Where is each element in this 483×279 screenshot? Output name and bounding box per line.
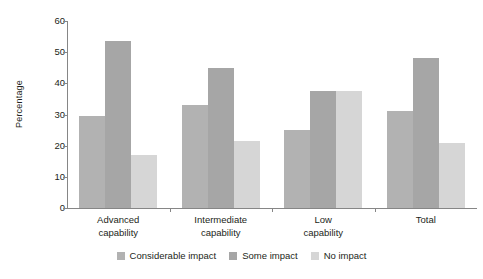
legend-item[interactable]: Considerable impact [117, 250, 217, 261]
x-axis-category-label-line: capability [166, 227, 276, 240]
chart-legend: Considerable impactSome impactNo impact [0, 250, 483, 261]
x-axis-category-label-line: Intermediate [166, 214, 276, 227]
x-axis-category-label-line: capability [63, 227, 173, 240]
y-tick-label: 60 [35, 15, 65, 27]
legend-swatch-icon [229, 252, 237, 260]
bar [208, 68, 234, 208]
x-tick-mark [375, 208, 376, 212]
legend-item[interactable]: Some impact [229, 250, 297, 261]
x-axis-category-label-line: Total [371, 214, 481, 227]
y-axis-title: Percentage [8, 0, 30, 208]
legend-label: No impact [324, 250, 367, 261]
bars-layer [67, 21, 477, 208]
bar-chart: Percentage 0102030405060 Advancedcapabil… [0, 0, 483, 279]
x-axis-category-label: Intermediatecapability [166, 214, 276, 239]
y-tick-label: 10 [35, 171, 65, 183]
legend-label: Considerable impact [130, 250, 217, 261]
plot-area: 0102030405060 [67, 21, 477, 208]
y-tick-label: 50 [35, 46, 65, 58]
legend-item[interactable]: No impact [311, 250, 367, 261]
legend-label: Some impact [242, 250, 297, 261]
bar [105, 41, 131, 208]
y-tick-label: 0 [35, 202, 65, 214]
y-tick-mark [63, 208, 67, 209]
bar [182, 105, 208, 208]
bar [439, 143, 465, 208]
bar [310, 91, 336, 208]
bar [413, 58, 439, 208]
bar [234, 141, 260, 208]
y-tick-label: 40 [35, 77, 65, 89]
bar [336, 91, 362, 208]
x-axis-category-label-line: capability [268, 227, 378, 240]
bar [79, 116, 105, 208]
legend-swatch-icon [311, 252, 319, 260]
x-tick-mark [170, 208, 171, 212]
legend-swatch-icon [117, 252, 125, 260]
x-axis-category-label: Total [371, 214, 481, 227]
x-axis-category-label-line: Advanced [63, 214, 173, 227]
bar [284, 130, 310, 208]
y-tick-label: 20 [35, 140, 65, 152]
x-axis-category-label: Lowcapability [268, 214, 378, 239]
x-tick-mark [272, 208, 273, 212]
y-tick-label: 30 [35, 109, 65, 121]
x-axis-category-label-line: Low [268, 214, 378, 227]
x-axis-category-label: Advancedcapability [63, 214, 173, 239]
y-axis-title-text: Percentage [14, 80, 24, 128]
bar [387, 111, 413, 208]
bar [131, 155, 157, 208]
